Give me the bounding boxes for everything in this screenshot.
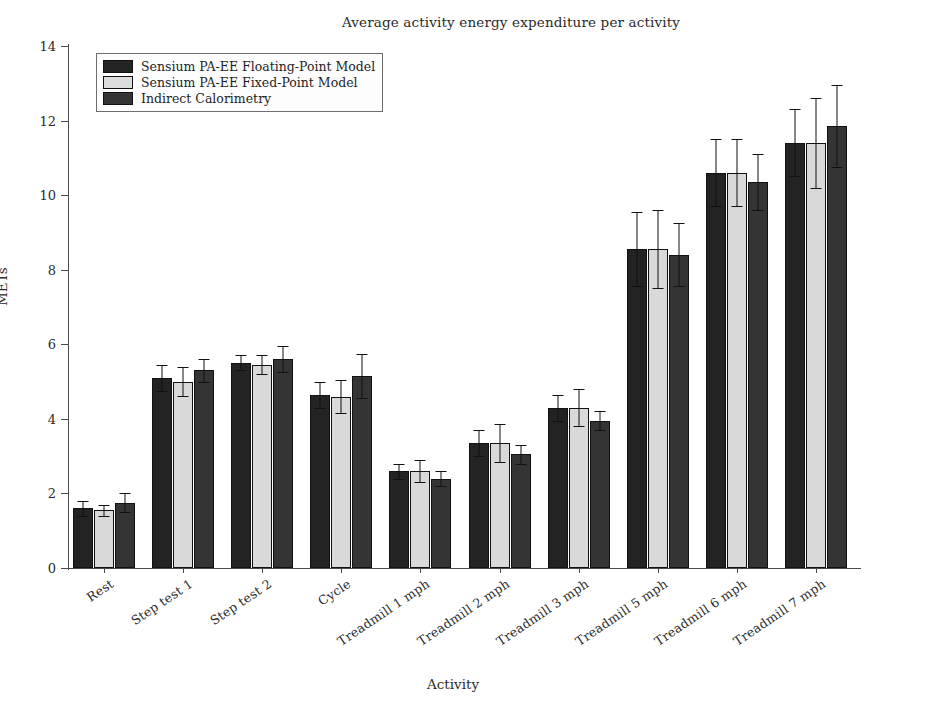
bar[interactable] [73, 508, 93, 568]
error-bar [669, 223, 689, 286]
bar-group [231, 46, 293, 568]
error-bar [352, 354, 372, 399]
bar[interactable] [827, 126, 847, 568]
bar[interactable] [410, 471, 430, 568]
error-bar-cap-bottom [552, 421, 563, 422]
error-bar-cap-bottom [711, 206, 722, 207]
error-bar-line [716, 139, 717, 206]
bar[interactable] [231, 363, 251, 568]
x-tick-mark [737, 568, 738, 573]
y-tick-mark [61, 419, 69, 420]
error-bar-line [124, 493, 125, 512]
bar-group [706, 46, 768, 568]
bar[interactable] [173, 382, 193, 568]
bar[interactable] [785, 143, 805, 568]
error-bar-cap-top [198, 359, 209, 360]
error-bar [627, 212, 647, 287]
error-bar [548, 395, 568, 421]
y-tick-mark [61, 344, 69, 345]
chart-legend: Sensium PA-EE Floating-Point ModelSensiu… [96, 53, 383, 112]
error-bar-cap-top [177, 367, 188, 368]
bar[interactable] [331, 397, 351, 569]
error-bar-line [637, 212, 638, 287]
error-bar-cap-top [336, 380, 347, 381]
x-axis-line [68, 568, 861, 569]
error-bar-cap-top [415, 460, 426, 461]
plot-area [68, 46, 860, 568]
error-bar-cap-top [732, 139, 743, 140]
y-tick-label: 8 [16, 262, 56, 277]
x-tick-mark [262, 568, 263, 573]
error-bar [806, 98, 826, 187]
bar[interactable] [310, 395, 330, 568]
bar-group [469, 46, 531, 568]
bar[interactable] [548, 408, 568, 568]
error-bar-cap-top [552, 395, 563, 396]
error-bar-line [816, 98, 817, 187]
error-bar-cap-top [119, 493, 130, 494]
bar[interactable] [273, 359, 293, 568]
bar[interactable] [748, 182, 768, 568]
bar[interactable] [569, 408, 589, 568]
legend-label: Indirect Calorimetry [141, 91, 271, 106]
bar[interactable] [389, 471, 409, 568]
error-bar-line [362, 354, 363, 399]
legend-swatch-icon [103, 60, 133, 73]
error-bar [431, 471, 451, 486]
bar[interactable] [511, 454, 531, 568]
legend-item[interactable]: Indirect Calorimetry [103, 90, 375, 106]
bar[interactable] [94, 510, 114, 568]
error-bar-line [320, 382, 321, 408]
bar[interactable] [648, 249, 668, 568]
bar[interactable] [352, 376, 372, 568]
error-bar-cap-top [790, 109, 801, 110]
bar[interactable] [727, 173, 747, 568]
bar[interactable] [431, 479, 451, 568]
error-bar-line [341, 380, 342, 414]
bar[interactable] [152, 378, 172, 568]
legend-label: Sensium PA-EE Fixed-Point Model [141, 75, 358, 90]
error-bar-cap-top [674, 223, 685, 224]
error-bar [827, 85, 847, 167]
error-bar-cap-bottom [415, 482, 426, 483]
error-bar-line [161, 365, 162, 391]
legend-label: Sensium PA-EE Floating-Point Model [141, 59, 375, 74]
error-bar-line [499, 424, 500, 461]
error-bar-cap-bottom [653, 288, 664, 289]
bar[interactable] [469, 443, 489, 568]
error-bar-line [557, 395, 558, 421]
error-bar [569, 389, 589, 426]
y-axis-title: METs [0, 267, 10, 306]
bar[interactable] [194, 370, 214, 568]
error-bar-cap-bottom [236, 370, 247, 371]
bar[interactable] [669, 255, 689, 568]
chart-title: Average activity energy expenditure per … [46, 14, 930, 30]
legend-item[interactable]: Sensium PA-EE Fixed-Point Model [103, 74, 375, 90]
x-tick-label: Cycle [315, 576, 353, 609]
error-bar-cap-top [653, 210, 664, 211]
y-tick-label: 0 [16, 561, 56, 576]
error-bar-cap-bottom [494, 462, 505, 463]
bar-group [73, 46, 135, 568]
bar[interactable] [590, 421, 610, 568]
error-bar-line [758, 154, 759, 210]
legend-item[interactable]: Sensium PA-EE Floating-Point Model [103, 58, 375, 74]
error-bar [152, 365, 172, 391]
error-bar-line [283, 346, 284, 372]
error-bar-cap-bottom [119, 512, 130, 513]
error-bar-cap-top [156, 365, 167, 366]
x-tick-label: Step test 1 [128, 576, 195, 628]
error-bar-cap-top [632, 212, 643, 213]
error-bar-cap-bottom [594, 430, 605, 431]
error-bar-line [795, 109, 796, 176]
error-bar-line [679, 223, 680, 286]
bar[interactable] [252, 365, 272, 568]
y-tick-label: 4 [16, 411, 56, 426]
error-bar-line [578, 389, 579, 426]
error-bar [231, 355, 251, 370]
error-bar-line [241, 355, 242, 370]
bar[interactable] [627, 249, 647, 568]
bar[interactable] [806, 143, 826, 568]
error-bar-line [520, 445, 521, 464]
bar[interactable] [706, 173, 726, 568]
